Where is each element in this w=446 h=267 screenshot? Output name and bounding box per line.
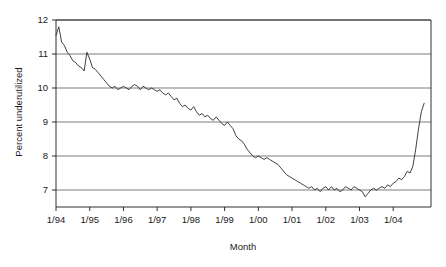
x-tick-label-1-99: 1/99 [215,214,234,225]
x-tick-label-1-98: 1/98 [182,214,201,225]
x-tick-label-1-00: 1/00 [249,214,268,225]
x-tick-label-1-04: 1/04 [384,214,403,225]
y-tick-label-8: 8 [43,150,48,161]
x-tick-label-1-97: 1/97 [148,214,167,225]
x-axis-label: Month [230,241,256,252]
y-tick-label-12: 12 [37,14,48,25]
x-tick-label-1-96: 1/96 [114,214,133,225]
y-axis-label: Percent underutilized [13,67,24,156]
x-tick-label-1-94: 1/94 [47,214,66,225]
y-tick-label-9: 9 [43,116,48,127]
y-tick-label-7: 7 [43,184,48,195]
y-tick-label-11: 11 [38,48,48,59]
chart-canvas: 789101112 1/941/951/961/971/981/991/001/… [0,0,446,267]
x-tick-label-1-01: 1/01 [283,214,302,225]
x-tick-label-1-02: 1/02 [317,214,336,225]
chart-figure: 789101112 1/941/951/961/971/981/991/001/… [0,0,446,267]
x-tick-label-1-95: 1/95 [80,214,99,225]
y-tick-label-10: 10 [37,82,48,93]
chart-background [0,0,446,267]
x-tick-label-1-03: 1/03 [350,214,369,225]
